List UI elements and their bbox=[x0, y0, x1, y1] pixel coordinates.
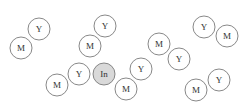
atom-node-m: M bbox=[79, 35, 101, 57]
atom-label: M bbox=[122, 84, 130, 94]
atom-node-y: Y bbox=[130, 58, 152, 80]
atom-label: In bbox=[100, 69, 108, 79]
atom-node-y: Y bbox=[193, 16, 215, 38]
atom-node-m: M bbox=[148, 33, 170, 55]
atom-label: Y bbox=[176, 54, 183, 64]
atom-label: M bbox=[223, 31, 231, 41]
atom-node-m: M bbox=[216, 25, 238, 47]
atom-label: M bbox=[155, 39, 163, 49]
atom-node-y: Y bbox=[94, 15, 116, 37]
atom-label: M bbox=[53, 80, 61, 90]
molecule-diagram: YMYMMYInMYMYYMMY bbox=[0, 0, 249, 108]
atom-node-m: M bbox=[10, 37, 32, 59]
atom-node-y: Y bbox=[28, 18, 50, 40]
atom-node-m: M bbox=[185, 79, 207, 101]
atom-node-m: M bbox=[46, 74, 68, 96]
atom-label: M bbox=[86, 41, 94, 51]
atom-node-y: Y bbox=[168, 48, 190, 70]
atom-label: M bbox=[192, 85, 200, 95]
center-atom-node: In bbox=[93, 63, 115, 85]
atom-label: Y bbox=[201, 22, 208, 32]
atom-label: Y bbox=[76, 69, 83, 79]
atom-label: Y bbox=[216, 75, 223, 85]
atom-label: Y bbox=[36, 24, 43, 34]
atom-label: Y bbox=[138, 64, 145, 74]
atom-label: M bbox=[17, 43, 25, 53]
atom-label: Y bbox=[102, 21, 109, 31]
atom-node-y: Y bbox=[68, 63, 90, 85]
atom-node-m: M bbox=[115, 78, 137, 100]
atom-node-y: Y bbox=[208, 69, 230, 91]
